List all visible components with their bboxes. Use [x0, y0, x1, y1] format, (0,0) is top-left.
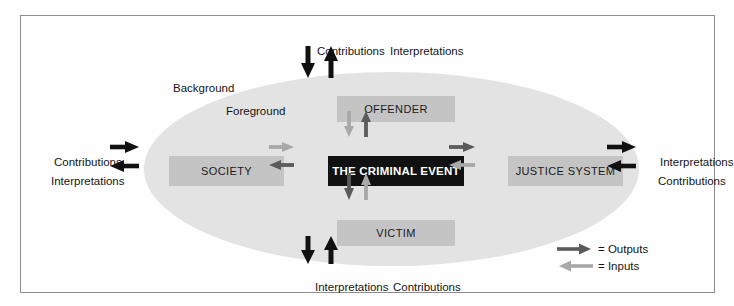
zone-label-background: Background — [173, 82, 234, 94]
node-society[interactable]: SOCIETY — [169, 156, 284, 186]
node-victim-label: VICTIM — [376, 227, 416, 239]
diagram-canvas: Background Foreground Contributions Inte… — [0, 0, 734, 306]
node-justice-system[interactable]: JUSTICE SYSTEM — [508, 156, 623, 186]
legend-outputs-arrow-icon — [557, 242, 593, 256]
zone-label-foreground: Foreground — [226, 105, 285, 117]
label-left-interpretations: Interpretations — [51, 175, 125, 187]
legend-row-outputs: = Outputs — [557, 240, 687, 257]
label-bottom-contributions: Contributions — [393, 281, 461, 293]
label-left-contributions: Contributions — [54, 156, 122, 168]
legend: = Outputs = Inputs — [557, 240, 687, 274]
label-bottom-interpretations: Interpretations — [315, 281, 389, 293]
label-right-contributions: Contributions — [658, 175, 726, 187]
node-offender-label: OFFENDER — [364, 103, 428, 115]
label-right-interpretations: Interpretations — [660, 156, 734, 168]
legend-inputs-arrow-icon — [557, 259, 593, 273]
label-top-interpretations: Interpretations — [390, 45, 464, 57]
node-justice-system-label: JUSTICE SYSTEM — [516, 165, 616, 177]
node-offender[interactable]: OFFENDER — [337, 96, 455, 122]
label-top-contributions: Contributions — [317, 45, 385, 57]
node-criminal-event-label: THE CRIMINAL EVENT — [332, 165, 459, 177]
node-victim[interactable]: VICTIM — [337, 220, 455, 246]
legend-inputs-label: = Inputs — [598, 260, 639, 272]
diagram-frame: Background Foreground Contributions Inte… — [20, 15, 715, 293]
node-society-label: SOCIETY — [201, 165, 252, 177]
node-criminal-event[interactable]: THE CRIMINAL EVENT — [328, 156, 464, 186]
legend-row-inputs: = Inputs — [557, 257, 687, 274]
legend-outputs-label: = Outputs — [598, 243, 648, 255]
